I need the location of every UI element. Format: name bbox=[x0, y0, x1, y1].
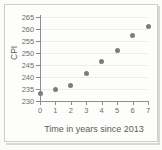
x-axis-tick bbox=[117, 101, 118, 105]
gridline-y bbox=[41, 41, 148, 42]
x-axis-tick bbox=[148, 101, 149, 105]
y-tick-label: 255 bbox=[22, 37, 34, 46]
y-tick-label: 245 bbox=[22, 61, 34, 70]
data-point bbox=[53, 87, 58, 92]
x-tick-label: 2 bbox=[69, 106, 73, 115]
x-tick-label: 0 bbox=[38, 106, 42, 115]
gridline-y bbox=[41, 77, 148, 78]
x-axis-tick bbox=[133, 101, 134, 105]
gridline-y bbox=[41, 17, 148, 18]
chart-figure: 23023524024525025526026501234567 CPI Tim… bbox=[0, 0, 162, 150]
x-axis-tick bbox=[86, 101, 87, 105]
x-tick-label: 4 bbox=[100, 106, 104, 115]
data-point bbox=[130, 33, 135, 38]
y-tick-label: 235 bbox=[22, 85, 34, 94]
data-point bbox=[68, 83, 73, 88]
data-point bbox=[99, 59, 104, 64]
y-axis-tick bbox=[36, 77, 41, 78]
data-point bbox=[115, 48, 120, 53]
data-point bbox=[146, 24, 151, 29]
x-axis-tick bbox=[71, 101, 72, 105]
x-axis-title: Time in years since 2013 bbox=[44, 124, 144, 134]
x-axis-tick bbox=[102, 101, 103, 105]
x-tick-label: 5 bbox=[115, 106, 119, 115]
gridline-y bbox=[41, 53, 148, 54]
y-axis-tick bbox=[36, 29, 41, 30]
y-axis-tick bbox=[36, 53, 41, 54]
x-tick-label: 3 bbox=[84, 106, 88, 115]
gridline-y bbox=[41, 29, 148, 30]
data-point bbox=[84, 71, 89, 76]
y-axis-tick bbox=[36, 65, 41, 66]
y-tick-label: 240 bbox=[22, 73, 34, 82]
x-tick-label: 1 bbox=[53, 106, 57, 115]
x-tick-label: 6 bbox=[130, 106, 134, 115]
y-axis-title: CPI bbox=[9, 46, 19, 60]
y-tick-label: 230 bbox=[22, 97, 34, 106]
y-tick-label: 260 bbox=[22, 25, 34, 34]
x-tick-label: 7 bbox=[146, 106, 150, 115]
data-point bbox=[38, 91, 43, 96]
y-axis-tick bbox=[36, 41, 41, 42]
gridline-y bbox=[41, 65, 148, 66]
y-tick-label: 265 bbox=[22, 13, 34, 22]
y-tick-label: 250 bbox=[22, 49, 34, 58]
x-axis-tick bbox=[40, 101, 41, 105]
y-axis-tick bbox=[36, 17, 41, 18]
x-axis-tick bbox=[55, 101, 56, 105]
y-axis-tick bbox=[36, 89, 41, 90]
